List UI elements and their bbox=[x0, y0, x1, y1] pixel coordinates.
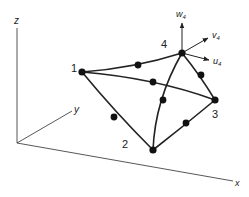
displacement-arrows bbox=[182, 23, 209, 60]
corner-nodes bbox=[78, 49, 218, 153]
edge-1-2 bbox=[82, 72, 153, 150]
node-3-label: 3 bbox=[212, 108, 218, 120]
w4-label: w4 bbox=[176, 9, 187, 20]
midnode-1-3 bbox=[150, 79, 157, 86]
u4-label: u4 bbox=[213, 56, 222, 67]
midnode-4-2 bbox=[160, 97, 167, 104]
node-4-label: 4 bbox=[161, 38, 167, 50]
coordinate-axes bbox=[17, 28, 233, 181]
edge-4-2 bbox=[153, 53, 182, 150]
edge-1-4 bbox=[82, 53, 182, 72]
x-axis-label: x bbox=[234, 178, 240, 188]
node-1-label: 1 bbox=[71, 62, 77, 74]
midnode-1-4 bbox=[135, 62, 142, 69]
y-axis bbox=[17, 111, 72, 143]
tetrahedron-diagram: z y x w4 v4 u4 1 2 bbox=[0, 0, 249, 197]
node-2 bbox=[149, 146, 156, 153]
v4-arrow bbox=[182, 38, 208, 53]
node-4 bbox=[178, 49, 185, 56]
midnode-2-3 bbox=[183, 120, 190, 127]
midnode-1-2 bbox=[111, 114, 118, 121]
node-2-label: 2 bbox=[122, 138, 128, 150]
element-edges bbox=[82, 53, 215, 150]
node-1 bbox=[78, 68, 85, 75]
z-axis-label: z bbox=[13, 15, 19, 26]
v4-label: v4 bbox=[212, 30, 221, 41]
node-3 bbox=[211, 96, 218, 103]
midnode-4-3 bbox=[198, 72, 205, 79]
y-axis-label: y bbox=[73, 104, 80, 115]
